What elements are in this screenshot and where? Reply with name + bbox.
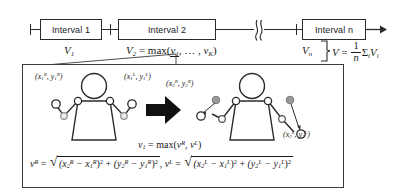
transition-arrow-icon [146,95,182,125]
max-formula: v1 = max(vR, vL) [138,139,201,150]
timeline-seg-2 [216,29,254,30]
left-skeleton [38,72,150,146]
radical-left: √ (x2L − x1L)2 + (y2L − y1L)2 [184,156,293,169]
timeline-tick-1 [110,24,111,35]
interval-2-box[interactable]: Interval 2 [118,19,216,40]
brace-icon [320,40,330,62]
one-over-n-fraction: 1 n [351,41,360,64]
radical-right: √ (x2R − x1R)2 + (y2R − y1R)2 [50,156,160,169]
interval-n-label: Interval n [315,25,353,35]
left-wrist-right-coord-label: (x1R, y1R) [35,72,62,81]
distance-formula: vR = √ (x2R − x1R)2 + (y2R − y1R)2 , vL … [30,156,293,169]
right-wrist-right-coord-label: (x2R, y2R) [166,79,193,88]
average-formula: V = 1 n ΣiVi [332,41,379,64]
right-wrist-left-coord-label: (x2L, y2L) [283,130,310,139]
interval-2-label: Interval 2 [148,25,186,35]
left-wrist-left-coord-label: (x1L, y1L) [124,72,151,81]
interval-1-box[interactable]: Interval 1 [40,19,102,40]
figure-root: Interval 1 Interval 2 Interval n V1 V2 =… [0,0,396,195]
timeline-tick-2 [296,24,297,35]
interval-1-label: Interval 1 [52,25,90,35]
timeline-arrow-icon [366,23,388,36]
timeline-seg-0 [30,29,40,30]
interval-n-box[interactable]: Interval n [302,19,366,40]
vn-label: Vn [302,44,312,56]
right-skeleton [190,72,320,152]
timeline-break-icon [250,18,268,42]
